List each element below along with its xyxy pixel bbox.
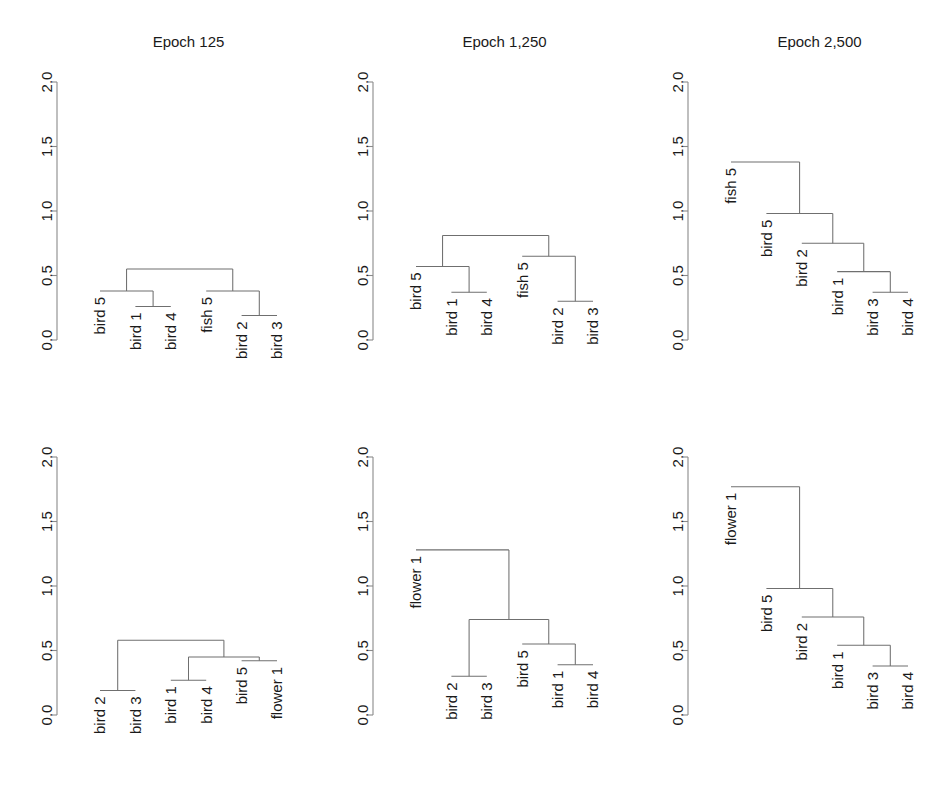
dendrogram-leaf-label: bird 2 <box>443 682 460 720</box>
dendrogram-leaf-label: flower 1 <box>723 493 740 546</box>
dendrogram-leaf-label: bird 3 <box>127 696 144 734</box>
panel-title: Epoch 2,500 <box>777 33 861 50</box>
dendrogram-leaf-label: bird 5 <box>514 650 531 688</box>
y-axis-tick-label: 2.0 <box>354 447 371 468</box>
panel-bottom-right: flower 1bird 5bird 2bird 1bird 3bird 4 <box>723 487 917 710</box>
dendrogram-leaf-label: bird 2 <box>793 623 810 661</box>
dendrogram-leaf-label: bird 1 <box>549 671 566 709</box>
figure-canvas: 0.00.51.01.52.0Epoch 125bird 5bird 1bird… <box>0 0 950 804</box>
y-axis-tick-label: 0.0 <box>354 705 371 726</box>
dendrogram-leaf-label: bird 1 <box>829 278 846 316</box>
dendrogram-leaf-label: bird 3 <box>864 298 881 336</box>
dendrogram-leaf-label: bird 2 <box>92 696 109 734</box>
y-axis-2: 0.00.51.01.52.0 <box>669 72 689 351</box>
dendrogram-leaf-label: bird 4 <box>900 298 917 336</box>
y-axis-tick-label: 1.5 <box>669 136 686 157</box>
y-axis-1: 0.00.51.01.52.0 <box>354 72 374 351</box>
y-axis-tick-label: 1.5 <box>38 136 55 157</box>
y-axis-tick-label: 2.0 <box>38 72 55 93</box>
y-axis-tick-label: 1.0 <box>38 201 55 222</box>
panel-bottom-middle: flower 1bird 2bird 3bird 5bird 1bird 4 <box>408 550 602 720</box>
panel-top-left: Epoch 125bird 5bird 1bird 4fish 5bird 2b… <box>92 33 286 359</box>
dendrogram-leaf-label: bird 5 <box>92 297 109 335</box>
y-axis-tick-label: 1.0 <box>354 201 371 222</box>
y-axis-tick-label: 1.5 <box>669 511 686 532</box>
panel-bottom-left: bird 2bird 3bird 1bird 4bird 5flower 1 <box>92 640 286 734</box>
dendrogram-leaf-label: bird 1 <box>162 686 179 724</box>
y-axis-tick-label: 0.0 <box>354 330 371 351</box>
dendrogram-leaf-label: bird 4 <box>478 298 495 336</box>
dendrogram-leaf-label: bird 4 <box>198 686 215 724</box>
dendrogram-leaf-label: fish 5 <box>723 168 740 204</box>
y-axis-tick-label: 0.5 <box>669 640 686 661</box>
y-axis-tick-label: 2.0 <box>354 72 371 93</box>
dendrogram-leaf-label: bird 1 <box>443 298 460 336</box>
y-axis-0: 0.00.51.01.52.0 <box>38 72 58 351</box>
y-axis-tick-label: 0.5 <box>354 640 371 661</box>
y-axis-tick-label: 0.0 <box>38 330 55 351</box>
dendrogram-leaf-label: bird 2 <box>233 321 250 359</box>
dendrogram-leaf-label: bird 5 <box>408 272 425 310</box>
dendrogram-leaf-label: bird 5 <box>758 220 775 258</box>
dendrogram-leaf-label: bird 3 <box>269 321 286 359</box>
dendrogram-leaf-label: bird 4 <box>162 312 179 350</box>
y-axis-tick-label: 0.0 <box>38 705 55 726</box>
y-axis-tick-label: 0.5 <box>354 265 371 286</box>
dendrogram-leaf-label: bird 2 <box>549 307 566 345</box>
panel-top-middle: Epoch 1,250bird 5bird 1bird 4fish 5bird … <box>408 33 602 345</box>
dendrogram-leaf-label: fish 5 <box>514 262 531 298</box>
dendrogram-leaf-label: bird 2 <box>793 249 810 287</box>
y-axis-tick-label: 1.0 <box>669 576 686 597</box>
dendrogram-leaf-label: bird 3 <box>585 307 602 345</box>
dendrogram-leaf-label: bird 3 <box>864 672 881 710</box>
y-axis-tick-label: 0.5 <box>38 640 55 661</box>
dendrogram-leaf-label: flower 1 <box>408 556 425 609</box>
y-axis-tick-label: 2.0 <box>669 447 686 468</box>
dendrogram-leaf-label: bird 4 <box>900 672 917 710</box>
y-axis-tick-label: 1.0 <box>38 576 55 597</box>
y-axis-tick-label: 0.5 <box>669 265 686 286</box>
panel-top-right: Epoch 2,500fish 5bird 5bird 2bird 1bird … <box>723 33 917 336</box>
dendrogram-leaf-label: bird 1 <box>127 312 144 350</box>
y-axis-tick-label: 2.0 <box>38 447 55 468</box>
y-axis-tick-label: 1.0 <box>354 576 371 597</box>
y-axis-4: 0.00.51.01.52.0 <box>354 447 374 726</box>
y-axis-tick-label: 1.0 <box>669 201 686 222</box>
y-axis-tick-label: 2.0 <box>669 72 686 93</box>
panel-title: Epoch 1,250 <box>462 33 546 50</box>
dendrogram-leaf-label: flower 1 <box>269 667 286 720</box>
dendrogram-leaf-label: fish 5 <box>198 297 215 333</box>
dendrogram-leaf-label: bird 4 <box>585 671 602 709</box>
dendrogram-leaf-label: bird 5 <box>758 595 775 633</box>
y-axis-tick-label: 1.5 <box>38 511 55 532</box>
dendrogram-leaf-label: bird 3 <box>478 682 495 720</box>
panel-title: Epoch 125 <box>153 33 225 50</box>
y-axis-tick-label: 0.5 <box>38 265 55 286</box>
y-axis-tick-label: 0.0 <box>669 330 686 351</box>
dendrogram-leaf-label: bird 5 <box>233 667 250 705</box>
y-axis-tick-label: 1.5 <box>354 136 371 157</box>
y-axis-tick-label: 0.0 <box>669 705 686 726</box>
dendrogram-figure: 0.00.51.01.52.0Epoch 125bird 5bird 1bird… <box>0 0 950 804</box>
dendrogram-leaf-label: bird 1 <box>829 651 846 689</box>
y-axis-5: 0.00.51.01.52.0 <box>669 447 689 726</box>
y-axis-tick-label: 1.5 <box>354 511 371 532</box>
y-axis-3: 0.00.51.01.52.0 <box>38 447 58 726</box>
